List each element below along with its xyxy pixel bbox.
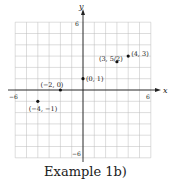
figure-caption: Example 1b) [0, 164, 171, 179]
point-label: (0, 1) [86, 75, 104, 83]
x-axis-label: x [163, 86, 168, 95]
data-point [127, 55, 130, 58]
x-min-tick: −6 [9, 93, 18, 100]
data-point [81, 77, 84, 80]
point-label: (−2, 0) [40, 81, 63, 89]
point-label: (4, 3) [131, 50, 149, 58]
data-points: (−4, −1)(−2, 0)(0, 1)(3, 5/2)(4, 3) [29, 50, 149, 113]
y-min-tick: −6 [72, 150, 81, 157]
point-label: (3, 5/2) [99, 55, 123, 63]
coordinate-plane: x y −6 6 6 −6 (−4, −1)(−2, 0)(0, 1)(3, 5… [0, 0, 171, 186]
data-point [36, 100, 39, 103]
y-axis-label: y [78, 2, 84, 11]
y-max-tick: 6 [75, 20, 79, 27]
point-label: (−4, −1) [29, 105, 58, 113]
x-max-tick: 6 [146, 93, 150, 100]
x-arrow-icon [155, 88, 161, 92]
axes [8, 9, 161, 162]
